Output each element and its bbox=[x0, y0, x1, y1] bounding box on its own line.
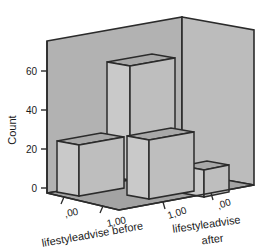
z-tick-mark-1 bbox=[163, 202, 165, 209]
x-tick-mark-1 bbox=[100, 206, 103, 213]
chart-container: 60 40 20 0 Count bbox=[0, 0, 270, 249]
y-axis: 60 40 20 0 Count bbox=[6, 41, 47, 194]
x-axis-title: lifestyleadvise before bbox=[41, 219, 144, 249]
y-axis-title: Count bbox=[6, 115, 18, 144]
y-tick-label-60: 60 bbox=[26, 66, 38, 77]
bar-front-face bbox=[57, 141, 79, 196]
z-tick-label-1: 1,00 bbox=[166, 204, 188, 221]
x-tick-label-0: ,00 bbox=[63, 206, 79, 220]
y-tick-label-40: 40 bbox=[26, 105, 38, 116]
z-axis-title-line2: after bbox=[201, 232, 225, 247]
bar-side-face bbox=[149, 132, 194, 199]
x-tick-mark-0 bbox=[61, 197, 64, 204]
three-d-bar-chart: 60 40 20 0 Count bbox=[0, 0, 270, 249]
bar-front-00 bbox=[57, 133, 124, 196]
bar-front-face bbox=[127, 136, 149, 199]
y-tick-label-0: 0 bbox=[31, 183, 37, 194]
bar-front-1-00 bbox=[127, 128, 194, 199]
y-tick-label-20: 20 bbox=[26, 144, 38, 155]
z-tick-label-0: ,00 bbox=[216, 196, 233, 211]
bar-side-face bbox=[79, 137, 124, 196]
